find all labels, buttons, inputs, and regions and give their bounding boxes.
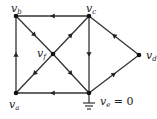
circuit-graph: vbvcvfvdvave = 0 (0, 0, 157, 119)
node-vf (51, 52, 56, 57)
arrow-icon (13, 52, 18, 57)
labels: vbvcvfvdvave = 0 (9, 2, 157, 112)
node-label-va: va (9, 98, 19, 112)
arrow-icon (50, 13, 55, 18)
node-label-vb: vb (11, 2, 22, 16)
node-vd (137, 53, 142, 58)
arrow-icon (86, 52, 91, 57)
edges (16, 16, 139, 93)
node-label-vf: vf (37, 47, 47, 61)
ground-symbol (83, 93, 95, 109)
arrow-icon (50, 90, 55, 95)
nodes (14, 14, 142, 96)
node-label-ve: ve = 0 (100, 95, 134, 109)
node-label-vc: vc (86, 2, 96, 16)
node-ve (87, 91, 92, 96)
node-label-vd: vd (146, 49, 157, 63)
node-va (14, 91, 19, 96)
